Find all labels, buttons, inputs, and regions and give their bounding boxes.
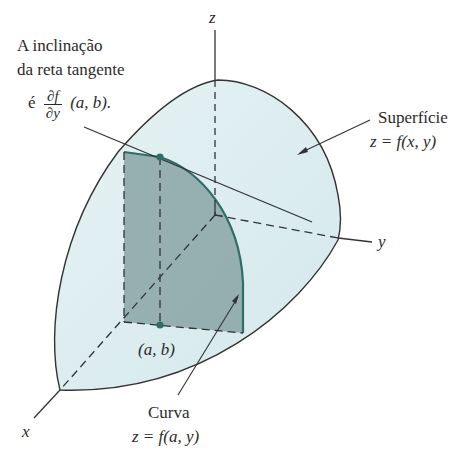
tangent-annotation-line1: A inclinação — [17, 36, 102, 56]
curve-label-line1: Curva — [148, 403, 190, 423]
tangent-annotation-formula: é ∂f ∂y (a, b). — [28, 88, 111, 121]
partial-derivative-fraction: ∂f ∂y — [44, 88, 62, 121]
x-axis-line — [34, 390, 60, 418]
z-axis-label: z — [209, 8, 216, 28]
point-a-b-label: (a, b) — [138, 340, 175, 360]
frac-numerator: ∂f — [44, 88, 62, 105]
surface-label-line1: Superfície — [378, 108, 448, 128]
x-axis-label: x — [22, 422, 30, 442]
surface-label-line2: z = f(x, y) — [370, 132, 436, 152]
curve-label-line2: z = f(a, y) — [132, 427, 199, 447]
point-a-b — [156, 321, 163, 328]
y-axis-label: y — [378, 232, 386, 252]
tangent-annotation-line2: da reta tangente — [17, 60, 125, 80]
formula-suffix: (a, b). — [70, 93, 111, 112]
formula-prefix: é — [28, 93, 36, 112]
y-axis-line — [338, 238, 372, 242]
point-on-curve — [156, 153, 163, 160]
frac-denominator: ∂y — [44, 105, 62, 121]
